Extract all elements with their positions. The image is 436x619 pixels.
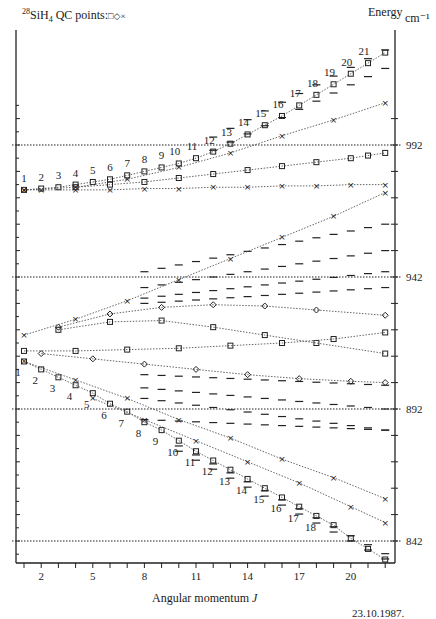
upper-band-label: 13 [221,126,233,138]
cross-marker: × [89,393,97,403]
cross-marker: × [175,415,183,425]
upper-band-label: 8 [142,153,148,165]
cross-marker: × [381,98,389,108]
energy-level-plot: 84289294299225811141720×××××××××××××××××… [0,0,436,619]
y-tick-label-942: 942 [406,271,423,283]
upper-band-label: 9 [159,149,165,161]
y-tick-label-842: 842 [406,535,423,547]
upper-band-label: 6 [107,161,113,173]
lower-band-label: 15 [253,493,265,505]
square-marker [383,50,388,55]
lower-band-label: 13 [219,475,231,487]
x-tick-label-8: 8 [142,570,148,582]
series-line-lower-cross-slow [93,398,385,522]
lower-band-label: 1 [15,366,21,378]
square-marker [194,449,199,454]
square-marker [331,82,336,87]
upper-band-label: 15 [255,107,267,119]
y-tick-label-992: 992 [406,139,423,151]
cross-marker: × [141,415,149,425]
lower-band-label: 14 [236,484,248,496]
lower-band-label: 11 [185,456,196,468]
lower-band-label: 5 [84,398,90,410]
cross-marker: × [175,184,183,194]
cross-marker: × [123,393,131,403]
cross-marker: × [72,314,80,324]
cross-marker: × [278,181,286,191]
lower-band-label: 18 [305,521,317,533]
cross-marker: × [141,184,149,194]
cross-marker: × [106,185,114,195]
square-marker [56,375,61,380]
upper-band-label: 3 [56,169,62,181]
y-tick-label-892: 892 [406,403,423,415]
x-tick-label-11: 11 [191,570,202,582]
cross-marker: × [347,502,355,512]
lower-band-label: 6 [101,409,107,421]
cross-marker: × [244,182,252,192]
lower-band-label: 8 [136,427,142,439]
upper-band-label: 10 [169,145,181,157]
upper-band-label: 4 [73,167,79,179]
upper-band-label: 1 [21,172,27,184]
cross-marker: × [347,180,355,190]
cross-marker: × [72,182,80,192]
lower-band-label: 12 [202,465,213,477]
cross-marker: × [278,454,286,464]
square-marker [228,467,233,472]
lower-band-label: 2 [32,374,38,386]
upper-band-label: 20 [341,56,353,68]
upper-band-label: 2 [38,171,44,183]
cross-marker: × [278,131,286,141]
lower-band-label: 7 [118,417,124,429]
cross-marker: × [381,188,389,198]
upper-band-label: 7 [124,157,130,169]
x-tick-label-17: 17 [294,570,306,582]
square-marker [366,546,371,551]
x-tick-label-5: 5 [90,570,96,582]
upper-band-label: 18 [307,77,319,89]
cross-marker: × [295,478,303,488]
cross-marker: × [37,185,45,195]
cross-marker: × [123,174,131,184]
cross-marker: × [381,518,389,528]
series-line-upper-band-square-2 [76,153,386,187]
cross-marker: × [330,211,338,221]
cross-marker: × [244,457,252,467]
lower-band-label: 4 [67,390,73,402]
cross-marker: × [381,494,389,504]
upper-band-label: 11 [187,140,198,152]
square-marker [314,92,319,97]
cross-marker: × [209,182,217,192]
cross-marker: × [175,275,183,285]
lower-band-label: 9 [153,435,159,447]
lower-band-label: 16 [271,502,283,514]
cross-marker: × [192,436,200,446]
x-tick-label-20: 20 [345,570,357,582]
upper-band-label: 17 [290,87,302,99]
cross-marker: × [123,296,131,306]
x-tick-label-14: 14 [242,570,254,582]
cross-marker: × [227,254,235,264]
upper-band-label: 5 [90,164,96,176]
upper-band-label: 21 [359,45,370,57]
cross-marker: × [330,115,338,125]
cross-marker: × [227,148,235,158]
cross-marker: × [330,473,338,483]
series-line-lower-band-square [24,361,385,559]
upper-band-label: 16 [273,98,285,110]
lower-band-label: 10 [167,446,179,458]
cross-marker: × [278,232,286,242]
lower-band-label: 3 [50,382,56,394]
upper-band-label: 12 [204,134,215,146]
cross-marker: × [175,162,183,172]
upper-band-label: 19 [324,66,336,78]
cross-marker: × [20,185,28,195]
lower-band-label: 17 [288,512,300,524]
cross-marker: × [313,181,321,191]
x-tick-label-2: 2 [38,570,44,582]
cross-marker: × [20,330,28,340]
cross-marker: × [227,433,235,443]
upper-band-label: 14 [238,116,250,128]
square-marker [262,486,267,491]
